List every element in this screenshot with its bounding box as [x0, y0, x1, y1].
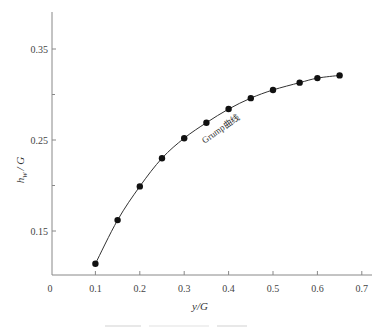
x-tick-label: 0.1	[89, 283, 102, 294]
y-tick-label: 0.35	[31, 44, 49, 55]
x-axis-label: y/G	[191, 300, 208, 312]
data-point	[296, 79, 302, 85]
x-tick-label: 0.5	[267, 283, 280, 294]
x-tick-label: 0	[48, 283, 53, 294]
x-tick-label: 0.6	[311, 283, 324, 294]
x-tick-label: 0.4	[222, 283, 235, 294]
y-tick-label: 0.25	[31, 135, 49, 146]
y-axis-label: hw/ G	[14, 157, 29, 184]
grump-curve	[95, 75, 339, 263]
y-axis-label-subscript: w	[20, 172, 29, 178]
data-markers	[92, 72, 343, 267]
data-point	[159, 155, 165, 161]
data-point	[270, 87, 276, 93]
data-point	[181, 135, 187, 141]
curve-annotation: Grump曲线	[199, 111, 241, 145]
data-point	[225, 106, 231, 112]
data-point	[203, 120, 209, 126]
x-tick-label: 0.2	[134, 283, 147, 294]
data-point	[336, 72, 342, 78]
figure-caption-faint	[105, 317, 265, 325]
tick-marks	[52, 49, 362, 275]
x-tick-label: 0.7	[356, 283, 369, 294]
x-tick-label: 0.3	[178, 283, 191, 294]
data-point	[248, 95, 254, 101]
data-point	[92, 261, 98, 267]
data-point	[114, 217, 120, 223]
data-point	[314, 75, 320, 81]
y-tick-label: 0.15	[31, 226, 49, 237]
chart-canvas: 00.10.20.30.40.50.60.70.150.250.35 Grump…	[0, 0, 383, 327]
axes	[52, 12, 372, 275]
data-point	[137, 183, 143, 189]
y-axis-label-denominator: / G	[14, 157, 26, 172]
